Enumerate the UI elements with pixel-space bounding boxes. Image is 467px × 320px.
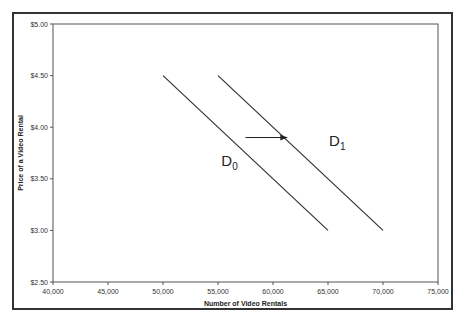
demand-curve-d1: [218, 76, 383, 231]
y-tick-label: $4.00: [30, 124, 48, 131]
x-tick-label: 40,000: [42, 288, 64, 295]
x-tick-label: 60,000: [262, 288, 284, 295]
y-tick-label: $5.00: [30, 21, 48, 28]
y-axis-title: Price of a Video Rental: [17, 115, 24, 191]
x-axis: 40,00045,00050,00055,00060,00065,00070,0…: [42, 282, 449, 295]
y-tick-label: $3.00: [30, 227, 48, 234]
x-tick-label: 55,000: [207, 288, 229, 295]
y-axis: $2.50$3.00$3.50$4.00$4.50$5.00: [30, 21, 53, 286]
y-tick-label: $2.50: [30, 279, 48, 286]
demand-curves: D0D1: [163, 76, 383, 231]
curve-label-d0: D0: [221, 152, 238, 172]
x-axis-title: Number of Video Rentals: [204, 300, 287, 307]
x-tick-label: 45,000: [97, 288, 119, 295]
x-tick-label: 70,000: [372, 288, 394, 295]
demand-shift-chart: $2.50$3.00$3.50$4.00$4.50$5.00 40,00045,…: [0, 0, 467, 320]
curve-label-d1: D1: [329, 132, 346, 152]
x-tick-label: 50,000: [152, 288, 174, 295]
x-tick-label: 75,000: [427, 288, 449, 295]
y-tick-label: $4.50: [30, 72, 48, 79]
demand-curve-d0: [163, 76, 328, 231]
y-tick-label: $3.50: [30, 175, 48, 182]
x-tick-label: 65,000: [317, 288, 339, 295]
